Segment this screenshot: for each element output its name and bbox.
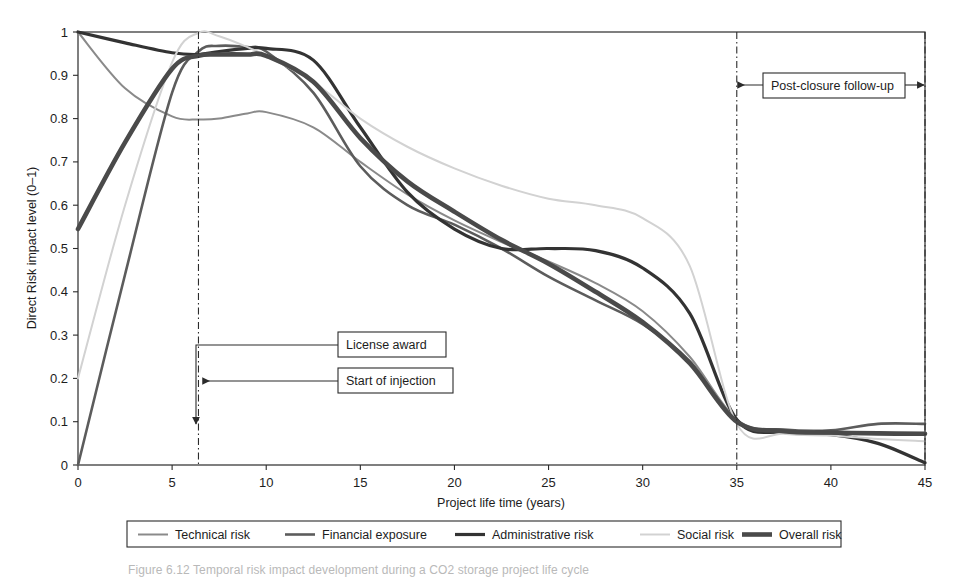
y-tick-label: 0.2 [50, 371, 68, 386]
start-of-injection-annotation: Start of injection [203, 368, 453, 393]
y-tick-label: 0.5 [50, 241, 68, 256]
y-tick-label: 0.9 [50, 68, 68, 83]
figure-container: 00.10.20.30.40.50.60.70.80.91 0510152025… [0, 0, 957, 577]
legend-label-technical-risk: Technical risk [175, 528, 251, 542]
series-line-financial-exposure [78, 46, 925, 465]
post-closure-label: Post-closure follow-up [771, 79, 894, 93]
y-tick-label: 0.7 [50, 154, 68, 169]
x-axis-ticks: 051015202530354045 [74, 465, 932, 490]
x-tick-label: 40 [824, 475, 838, 490]
x-tick-label: 0 [74, 475, 81, 490]
y-axis-ticks: 00.10.20.30.40.50.60.70.80.91 [50, 25, 78, 473]
y-axis-title: Direct Risk impact level (0–1) [25, 167, 39, 330]
y-tick-label: 0.4 [50, 284, 68, 299]
y-tick-label: 0 [61, 458, 68, 473]
x-tick-label: 15 [353, 475, 367, 490]
y-tick-label: 1 [61, 25, 68, 40]
legend-label-administrative-risk: Administrative risk [492, 528, 594, 542]
start-of-injection-label: Start of injection [346, 374, 436, 388]
y-tick-label: 0.8 [50, 111, 68, 126]
legend-label-financial-exposure: Financial exposure [322, 528, 427, 542]
license-award-leader [196, 345, 340, 424]
y-tick-label: 0.6 [50, 198, 68, 213]
x-tick-label: 5 [168, 475, 175, 490]
legend-label-social-risk: Social risk [677, 528, 735, 542]
risk-impact-line-chart: 00.10.20.30.40.50.60.70.80.91 0510152025… [0, 0, 957, 577]
x-tick-label: 30 [635, 475, 649, 490]
y-tick-label: 0.1 [50, 414, 68, 429]
y-tick-label: 0.3 [50, 328, 68, 343]
x-tick-label: 45 [918, 475, 932, 490]
figure-caption: Figure 6.12 Temporal risk impact develop… [128, 563, 589, 577]
license-award-label: License award [346, 338, 427, 352]
x-axis-title: Project life time (years) [437, 496, 565, 510]
x-tick-label: 25 [541, 475, 555, 490]
x-tick-label: 35 [730, 475, 744, 490]
legend-label-overall-risk: Overall risk [779, 528, 842, 542]
x-tick-label: 10 [259, 475, 273, 490]
series-line-overall-risk [78, 53, 925, 433]
x-tick-label: 20 [447, 475, 461, 490]
chart-legend: Technical riskFinancial exposureAdminist… [127, 521, 842, 547]
post-closure-annotation: Post-closure follow-up [738, 73, 924, 98]
